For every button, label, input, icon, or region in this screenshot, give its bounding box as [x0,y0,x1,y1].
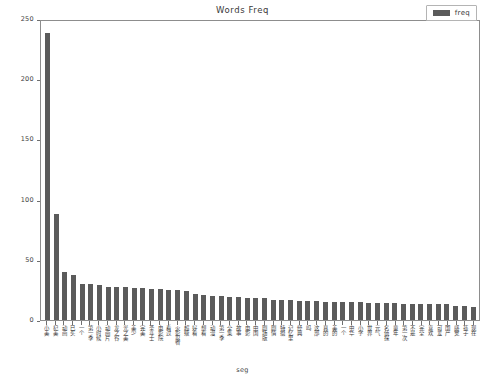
x-axis-tick-mark [281,321,282,325]
x-axis-tick-label: 故事 [235,325,241,335]
bar [149,289,154,320]
x-axis-tick-label: 动漫 [209,325,215,335]
y-axis-tick-label: 250 [21,15,34,23]
x-axis-tick-label: 看过 [166,325,172,335]
bar [193,294,198,320]
bar-slot [165,21,174,320]
x-axis-tick-mark [124,321,125,325]
x-axis-tick-label: 童年 [392,325,398,335]
bar-slot [104,21,113,320]
x-axis-tick-mark [299,321,300,325]
bar-slot [60,21,69,320]
bar-slot [425,21,434,320]
bar-slot [182,21,191,320]
x-axis-tick-mark [55,321,56,325]
x-axis-label-slot: 第一季 [216,325,225,367]
x-axis-label-slot: 全集 [225,325,234,367]
x-axis-tick-label: 小时候 [96,325,102,339]
bar-slot [434,21,443,320]
x-axis-label-slot: 动画片 [103,325,112,367]
bar [453,306,458,320]
bar [184,291,189,320]
bar [166,290,171,320]
bar [305,301,310,320]
bar [123,287,128,320]
x-axis-label-slot: 孩子 [461,325,470,367]
x-axis-tick-label: 中华 [349,325,355,335]
bar-slot [312,21,321,320]
x-axis-label-slot: 不是 [408,325,417,367]
x-axis-label-slot: 一个 [338,325,347,367]
bar [418,304,423,320]
x-axis-tick-mark [133,321,134,325]
x-axis-label-slot: 经典 [295,325,304,367]
x-axis-tick-mark [368,321,369,325]
x-axis-tick-label: 中国 [253,325,259,335]
bar-slot [278,21,287,320]
x-axis-label-slot: 元气 [373,325,382,367]
x-axis-tick-label: 喜欢 [427,325,433,335]
y-axis-tick-label: 0 [30,316,34,324]
bar-slot [286,21,295,320]
x-axis-tick-mark [307,321,308,325]
x-axis-tick-label: 小美 [44,325,50,335]
plot-area [40,20,480,321]
x-axis-label-slot: 电影院 [155,325,164,367]
x-axis-label-slot: 光之美 [120,325,129,367]
legend-label-freq: freq [455,9,470,17]
x-axis-label-slot: 好看 [190,325,199,367]
bar-slot [86,21,95,320]
x-axis-tick-mark [203,321,204,325]
bar-slot [147,21,156,320]
bar [410,304,415,320]
bar-slot [408,21,417,320]
bar [245,298,250,320]
x-axis-tick-label: 动画片 [105,325,111,339]
x-axis-label-slot: 电影 [243,325,252,367]
x-axis-tick-label: 吗 [305,325,311,330]
x-axis-tick-mark [107,321,108,325]
x-axis-tick-label: 现在 [471,325,477,335]
x-axis-tick-label: 第一季 [218,325,224,339]
x-axis-tick-label: 一个 [78,325,84,335]
x-axis-tick-label: 电影 [244,325,250,335]
x-axis-tick-mark [89,321,90,325]
x-axis-tick-label: 圣斗士 [148,325,154,339]
bar [62,272,67,320]
x-axis-tick-label: 记忆里 [288,325,294,339]
bar-slot [121,21,130,320]
bar [114,287,119,320]
bar [332,302,337,320]
bar-slot [173,21,182,320]
y-axis: 050100150200250 [0,20,40,321]
bar-slot [225,21,234,320]
x-axis-tick-label: 感觉 [453,325,459,335]
x-axis-tick-mark [150,321,151,325]
bar-slot [338,21,347,320]
x-axis-label-slot: 龙之谷 [112,325,121,367]
y-axis-tick-label: 50 [25,256,34,264]
x-axis-tick-mark [264,321,265,325]
bars-layer [41,21,479,320]
x-axis-label-slot: 第一季 [86,325,95,367]
x-axis-tick-mark [194,321,195,325]
x-axis-tick-mark [429,321,430,325]
x-axis-tick-mark [63,321,64,325]
bar-slot [43,21,52,320]
bar [54,214,59,320]
bar [314,301,319,320]
x-axis-tick-label: 世界 [366,325,372,335]
x-axis-tick-label: 完美 [139,325,145,335]
x-axis-tick-mark [351,321,352,325]
bar-slot [217,21,226,320]
x-axis-tick-label: 可爱 [436,325,442,335]
x-axis-label-slot: 名侦探 [382,325,391,367]
bar [236,297,241,320]
bar [401,304,406,320]
x-axis-tick-mark [229,321,230,325]
bar-slot [52,21,61,320]
y-axis-tick-label: 100 [21,196,34,204]
bar [436,304,441,320]
bar [375,303,380,320]
legend-swatch-freq [433,10,450,16]
